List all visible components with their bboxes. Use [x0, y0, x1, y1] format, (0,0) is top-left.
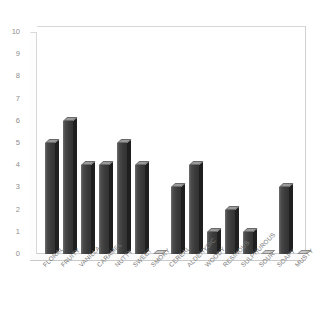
bar [279, 187, 293, 254]
y-tick-label: 9 [16, 50, 20, 58]
bar [261, 253, 275, 254]
bar-side-face [253, 228, 257, 254]
bar-side-face [145, 162, 149, 254]
y-tick-label: 6 [16, 117, 20, 125]
bar-side-face [127, 140, 131, 254]
bar-side-face [217, 228, 221, 254]
y-tick-label: 5 [16, 139, 20, 147]
bar-top-face [261, 250, 275, 254]
bar-chart: 012345678910 FLORALFRUITYVANILLACARAMELN… [0, 0, 329, 324]
bar-top-face [153, 250, 167, 254]
bar [171, 187, 185, 254]
bar-front-face [207, 232, 217, 254]
bar-front-face [135, 165, 145, 254]
bar-side-face [289, 184, 293, 254]
bar [63, 121, 77, 254]
bar-side-face [55, 140, 59, 254]
bar-front-face [63, 121, 73, 254]
bar-front-face [117, 143, 127, 254]
y-tick-label: 2 [16, 206, 20, 214]
y-tick-label: 7 [16, 95, 20, 103]
bar-side-face [73, 117, 77, 254]
bar-front-face [171, 187, 181, 254]
bar-front-face [99, 165, 109, 254]
plot-area [30, 32, 306, 254]
y-tick-label: 8 [16, 73, 20, 81]
y-tick-label: 1 [16, 228, 20, 236]
y-tick-label: 4 [16, 161, 20, 169]
y-tick-label: 0 [16, 250, 20, 258]
bar [243, 232, 257, 254]
bar-front-face [45, 143, 55, 254]
bar-side-face [109, 162, 113, 254]
bar [81, 165, 95, 254]
bar-front-face [225, 210, 235, 254]
bar-front-face [279, 187, 289, 254]
bar-top-face [297, 250, 311, 254]
bar [225, 210, 239, 254]
y-axis: 012345678910 [0, 0, 30, 324]
bar-front-face [81, 165, 91, 254]
bar [99, 165, 113, 254]
bar [45, 143, 59, 254]
bar-side-face [181, 184, 185, 254]
bar-side-face [235, 206, 239, 254]
y-tick-label: 3 [16, 184, 20, 192]
bar [135, 165, 149, 254]
bar [207, 232, 221, 254]
bars-layer [30, 32, 306, 261]
bar-side-face [199, 162, 203, 254]
bar-front-face [243, 232, 253, 254]
bar [297, 253, 311, 254]
bar-front-face [189, 165, 199, 254]
bar [189, 165, 203, 254]
bar [153, 253, 167, 254]
y-tick-label: 10 [12, 28, 20, 36]
bar [117, 143, 131, 254]
bar-side-face [91, 162, 95, 254]
